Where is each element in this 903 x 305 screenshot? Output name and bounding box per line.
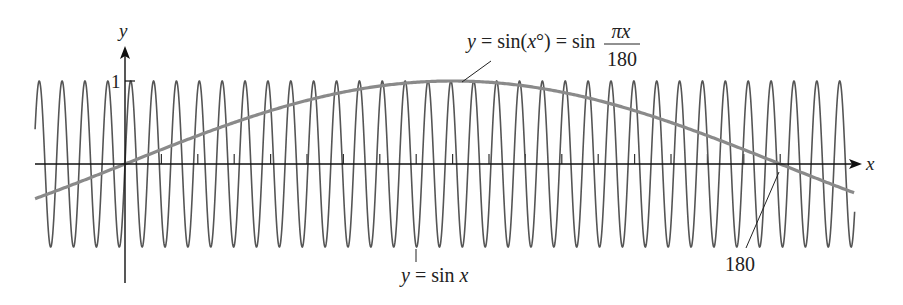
x-axis-ticks xyxy=(161,154,780,164)
x-tick-label-180: 180 xyxy=(725,253,755,275)
chart: x y 1 y = sin(x°) = sin πx 180 y = sin x… xyxy=(0,0,903,305)
sin-degrees-label: y = sin(x°) = sin xyxy=(465,30,595,53)
y-tick-label-1: 1 xyxy=(111,71,121,92)
x-axis-label: x xyxy=(865,153,875,174)
annotation-leader-line xyxy=(462,61,491,82)
fraction-numerator: πx xyxy=(612,20,631,42)
y-axis-label: y xyxy=(117,20,128,41)
label-180-leader-line xyxy=(746,172,779,248)
fraction-denominator: 180 xyxy=(607,48,637,70)
sin-x-label: y = sin x xyxy=(399,264,469,287)
